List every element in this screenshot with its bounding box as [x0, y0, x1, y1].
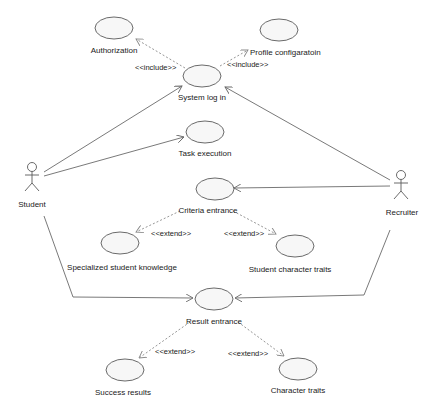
include-label-profile: <<include>>: [227, 60, 269, 69]
use-case-label: Profile configaratoin: [250, 48, 321, 57]
actor-student[interactable]: Student: [18, 163, 46, 210]
use-case-label: System log in: [178, 93, 226, 102]
use-case-success-results[interactable]: Success results: [95, 359, 151, 397]
use-case-system-log-in[interactable]: System log in: [178, 65, 226, 102]
use-case-specialized-student-knowledge[interactable]: Specialized student knowledge: [67, 232, 177, 272]
extend-label-student-traits: <<extend>>: [224, 229, 265, 238]
use-case-character-traits[interactable]: Character traits: [271, 358, 326, 395]
use-case-criteria-entrance[interactable]: Criteria entrance: [178, 178, 238, 215]
use-case-label: Specialized student knowledge: [67, 263, 177, 272]
use-case-label: Success results: [95, 388, 151, 397]
use-case-profile-configuration[interactable]: Profile configaratoin: [250, 19, 321, 57]
use-case-result-entrance[interactable]: Result entrance: [186, 288, 243, 326]
extend-label-success: <<extend>>: [155, 347, 196, 356]
actor-recruiter[interactable]: Recruiter: [386, 171, 419, 218]
use-case-label: Result entrance: [186, 317, 243, 326]
include-label-authorization: <<include>>: [135, 63, 177, 72]
use-case-task-execution[interactable]: Task execution: [179, 121, 232, 158]
use-case-label: Task execution: [179, 149, 232, 158]
actor-label: Recruiter: [386, 208, 419, 217]
use-case-authorization[interactable]: Authorization: [91, 17, 138, 55]
extend-label-knowledge: <<extend>>: [151, 229, 192, 238]
use-case-student-character-traits[interactable]: Student character traits: [249, 235, 332, 274]
stick-figure-icon: [25, 163, 39, 192]
extend-label-char-traits: <<extend>>: [228, 349, 269, 358]
assoc-recruiter-login[interactable]: [225, 87, 390, 180]
actor-label: Student: [18, 200, 46, 209]
assoc-recruiter-criteria[interactable]: [234, 186, 390, 188]
use-case-label: Authorization: [91, 46, 138, 55]
assoc-recruiter-result[interactable]: [235, 230, 390, 298]
assoc-student-task[interactable]: [44, 137, 184, 176]
assoc-student-login[interactable]: [44, 86, 182, 172]
use-case-label: Student character traits: [249, 265, 332, 274]
use-case-label: Character traits: [271, 386, 326, 395]
use-case-label: Criteria entrance: [178, 206, 238, 215]
stick-figure-icon: [394, 171, 408, 200]
use-case-diagram: <<include>> <<include>> <<extend>> <<ext…: [0, 0, 437, 410]
